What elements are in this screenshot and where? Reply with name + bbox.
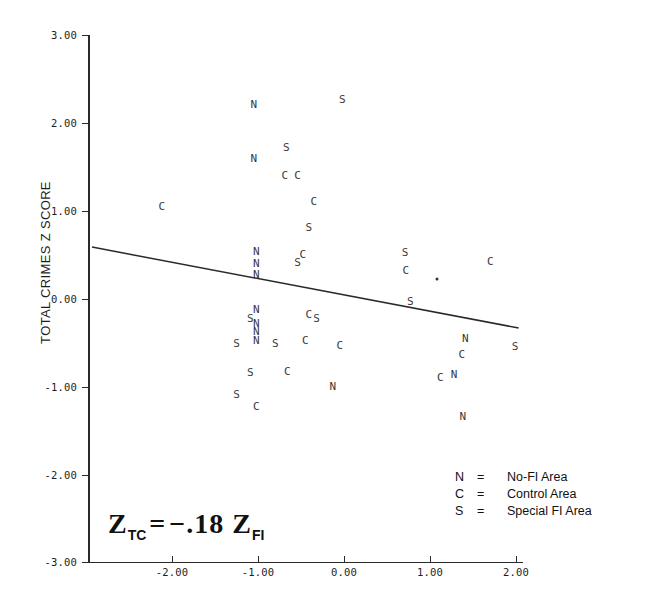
x-tick-label: 1.00 bbox=[400, 566, 460, 578]
data-point-s: S bbox=[294, 257, 301, 268]
equation-value: −.18 bbox=[169, 508, 224, 539]
x-tick-mark bbox=[172, 556, 173, 563]
data-point-n: N bbox=[253, 335, 260, 346]
data-point-s: S bbox=[272, 338, 279, 349]
equation-z2: Z bbox=[232, 508, 252, 539]
data-point-n: N bbox=[253, 245, 260, 256]
data-point-c: C bbox=[305, 309, 312, 320]
data-point-s: S bbox=[283, 141, 290, 152]
data-point-c: C bbox=[336, 339, 343, 350]
data-point-s: S bbox=[247, 313, 254, 324]
y-tick-mark bbox=[82, 35, 89, 36]
legend-equals: = bbox=[477, 504, 507, 518]
data-point-dot bbox=[435, 277, 438, 280]
data-point-n: N bbox=[253, 303, 260, 314]
equation-z1: Z bbox=[108, 508, 128, 539]
data-point-c: C bbox=[487, 256, 494, 267]
y-axis-title: TOTAL CRIMES Z SCORE bbox=[38, 148, 53, 378]
data-point-n: N bbox=[250, 98, 257, 109]
data-point-s: S bbox=[233, 338, 240, 349]
legend-symbol: C bbox=[455, 487, 477, 501]
x-tick-label: 0.00 bbox=[314, 566, 374, 578]
y-tick-label: -3.00 bbox=[31, 556, 77, 568]
equation-sub1: TC bbox=[128, 527, 147, 543]
legend-symbol: S bbox=[455, 504, 477, 518]
legend: N = No-FI Area C = Control Area S = Spec… bbox=[455, 470, 592, 521]
y-tick-mark bbox=[82, 123, 89, 124]
x-tick-mark bbox=[258, 556, 259, 563]
data-point-s: S bbox=[313, 312, 320, 323]
data-point-c: C bbox=[437, 372, 444, 383]
legend-equals: = bbox=[477, 487, 507, 501]
y-tick-label: -1.00 bbox=[31, 381, 77, 393]
equation-operator: = bbox=[146, 508, 169, 539]
y-tick-label: 1.00 bbox=[31, 205, 77, 217]
data-point-n: N bbox=[329, 381, 336, 392]
data-point-s: S bbox=[402, 246, 409, 257]
data-point-s: S bbox=[247, 367, 254, 378]
data-point-n: N bbox=[459, 411, 466, 422]
data-point-c: C bbox=[311, 196, 318, 207]
data-point-s: S bbox=[407, 295, 414, 306]
x-tick-mark bbox=[430, 556, 431, 563]
x-tick-label: -1.00 bbox=[228, 566, 288, 578]
equation-sub2: FI bbox=[252, 527, 264, 543]
x-axis-line bbox=[88, 562, 523, 564]
y-tick-mark bbox=[82, 475, 89, 476]
data-point-c: C bbox=[158, 200, 165, 211]
legend-equals: = bbox=[477, 470, 507, 484]
legend-label: Control Area bbox=[507, 487, 576, 501]
legend-item-control: C = Control Area bbox=[455, 487, 592, 504]
data-point-s: S bbox=[339, 94, 346, 105]
data-point-c: C bbox=[281, 169, 288, 180]
data-point-c: C bbox=[253, 401, 260, 412]
legend-label: Special FI Area bbox=[507, 504, 592, 518]
y-tick-mark bbox=[82, 387, 89, 388]
y-tick-mark bbox=[82, 211, 89, 212]
data-point-s: S bbox=[233, 389, 240, 400]
y-tick-mark bbox=[82, 562, 89, 563]
data-point-c: C bbox=[403, 265, 410, 276]
x-tick-mark bbox=[516, 556, 517, 563]
legend-item-special-fi: S = Special FI Area bbox=[455, 504, 592, 521]
data-point-c: C bbox=[294, 169, 301, 180]
x-tick-mark bbox=[344, 556, 345, 563]
data-point-c: C bbox=[284, 366, 291, 377]
data-point-n: N bbox=[250, 153, 257, 164]
data-point-c: C bbox=[302, 334, 309, 345]
regression-equation-annotation: ZTC=−.18 ZFI bbox=[108, 508, 264, 543]
x-tick-label: 2.00 bbox=[486, 566, 546, 578]
data-point-s: S bbox=[305, 221, 312, 232]
legend-item-no-fi: N = No-FI Area bbox=[455, 470, 592, 487]
data-point-n: N bbox=[462, 332, 469, 343]
legend-label: No-FI Area bbox=[507, 470, 567, 484]
data-point-s: S bbox=[512, 340, 519, 351]
y-tick-label: 3.00 bbox=[31, 29, 77, 41]
x-tick-label: -2.00 bbox=[142, 566, 202, 578]
data-point-c: C bbox=[458, 349, 465, 360]
data-point-n: N bbox=[451, 368, 458, 379]
y-tick-label: 2.00 bbox=[31, 117, 77, 129]
y-tick-mark bbox=[82, 299, 89, 300]
y-tick-label: -2.00 bbox=[31, 469, 77, 481]
scatter-plot-figure: TOTAL CRIMES Z SCORE 3.00 2.00 1.00 0.00… bbox=[0, 0, 648, 609]
data-point-n: N bbox=[253, 268, 260, 279]
legend-symbol: N bbox=[455, 470, 477, 484]
y-tick-label: 0.00 bbox=[31, 293, 77, 305]
